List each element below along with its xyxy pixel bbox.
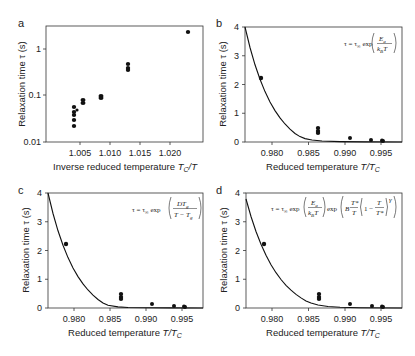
x-axis-b: 0.980 0.985 0.990 0.995 Reduced temperat… (261, 142, 393, 173)
y-tick-label: 0.1 (28, 90, 41, 100)
y-tick-label: 2 (234, 80, 239, 90)
svg-text:kBT: kBT (377, 45, 388, 54)
x-tick-label: 0.990 (334, 148, 357, 158)
y-tick-label: 3 (235, 217, 240, 227)
x-axis-title-d: Reduced temperature T/TC (266, 327, 381, 339)
x-tick-label: 1.020 (159, 148, 182, 158)
y-tick-label: 0 (235, 303, 240, 313)
plot-frame-a (46, 26, 203, 142)
panel-c: c 0 1 2 3 4 Relaxation time τ (s) 0.980 … (18, 184, 203, 339)
svg-text:1 −: 1 − (364, 205, 373, 213)
panel-d: d 0 1 2 3 4 Relaxation time τ (s) 0.980 … (216, 184, 402, 339)
x-tick-label: 0.995 (171, 314, 194, 324)
panel-label-c: c (18, 184, 24, 196)
x-axis-title-a: Inverse reduced temperature TC/T (53, 161, 198, 173)
x-tick-label: 0.985 (297, 148, 320, 158)
svg-text:exp: exp (327, 205, 338, 213)
y-tick-label: 1 (37, 274, 42, 284)
svg-text:T: T (352, 209, 357, 217)
svg-text:T*: T* (376, 209, 384, 217)
panel-label-d: d (216, 184, 222, 196)
x-tick-label: 1.015 (129, 148, 152, 158)
x-tick-label: 0.990 (334, 314, 357, 324)
svg-text:Ea: Ea (310, 199, 318, 208)
x-axis-a: 1.005 1.010 1.015 1.020 Inverse reduced … (53, 142, 198, 173)
y-tick-label: 4 (235, 188, 240, 198)
y-axis-title-a: Relaxation time τ (s) (16, 41, 27, 127)
x-axis-d: 0.980 0.985 0.990 0.995 Reduced temperat… (261, 308, 393, 339)
x-tick-label: 1.010 (99, 148, 122, 158)
y-tick-label: 2 (37, 246, 42, 256)
svg-text:DTg: DTg (176, 200, 189, 209)
y-tick-label: 4 (37, 188, 42, 198)
data-points-a (72, 30, 190, 128)
svg-text:T − Tg: T − Tg (174, 211, 193, 220)
y-tick-label: 1 (234, 108, 239, 118)
data-points-d (262, 242, 385, 309)
y-axis-a: 0.01 0.1 1 Relaxation time τ (s) (16, 41, 46, 147)
equation-box-d: τ = τ∞ exp Ea kBT exp B T* T 1 − T T* γ (271, 196, 396, 218)
data-points-b (259, 76, 385, 143)
equation-d: τ = τ∞ exp (271, 205, 300, 214)
x-tick-label: 0.985 (99, 314, 122, 324)
y-tick-label: 3 (234, 51, 239, 61)
x-axis-title-c: Reduced temperature T/TC (68, 327, 183, 339)
x-tick-label: 0.980 (261, 314, 284, 324)
panel-b: b 0 1 2 3 4 Relaxation time τ (s) 0.980 … (216, 17, 402, 173)
x-tick-label: 0.980 (261, 148, 284, 158)
svg-text:B: B (345, 205, 350, 213)
svg-text:γ: γ (389, 196, 392, 204)
y-axis-title-b: Relaxation time τ (s) (217, 41, 228, 127)
x-tick-label: 1.005 (69, 148, 92, 158)
y-tick-label: 2 (235, 246, 240, 256)
figure: a 0.01 0.1 1 Relaxation time τ (s) 1.005… (0, 0, 415, 356)
svg-text:T*: T* (351, 199, 359, 207)
x-tick-label: 0.990 (135, 314, 158, 324)
x-axis-c: 0.980 0.985 0.990 0.995 Reduced temperat… (63, 308, 194, 339)
x-tick-label: 0.985 (297, 314, 320, 324)
y-axis-b: 0 1 2 3 4 Relaxation time τ (s) (217, 22, 245, 147)
svg-text:T: T (377, 199, 382, 207)
panel-label-b: b (216, 17, 222, 29)
y-axis-d: 0 1 2 3 4 Relaxation time τ (s) (218, 188, 246, 313)
equation-c: τ = τ∞ exp (132, 206, 161, 215)
y-tick-label: 0.01 (23, 137, 41, 147)
y-tick-label: 0 (234, 137, 239, 147)
y-axis-title-c: Relaxation time τ (s) (20, 207, 31, 293)
equation-box-b: τ = τ∞ exp Ea kBT (342, 30, 400, 56)
data-points-c (64, 242, 187, 309)
y-axis-c: 0 1 2 3 4 Relaxation time τ (s) (20, 188, 48, 313)
y-tick-label: 0 (37, 303, 42, 313)
equation-box-c: τ = τ∞ exp DTg T − Tg (132, 197, 201, 220)
svg-text:kBT: kBT (308, 209, 319, 218)
y-axis-title-d: Relaxation time τ (s) (218, 207, 229, 293)
x-tick-label: 0.980 (63, 314, 86, 324)
y-tick-label: 4 (234, 22, 239, 32)
y-tick-label: 1 (36, 44, 41, 54)
y-tick-label: 1 (235, 274, 240, 284)
x-tick-label: 0.995 (370, 148, 393, 158)
x-tick-label: 0.995 (370, 314, 393, 324)
y-tick-label: 3 (37, 217, 42, 227)
panel-a: a 0.01 0.1 1 Relaxation time τ (s) 1.005… (16, 17, 203, 173)
x-axis-title-b: Reduced temperature T/TC (266, 161, 381, 173)
panel-label-a: a (18, 17, 25, 29)
